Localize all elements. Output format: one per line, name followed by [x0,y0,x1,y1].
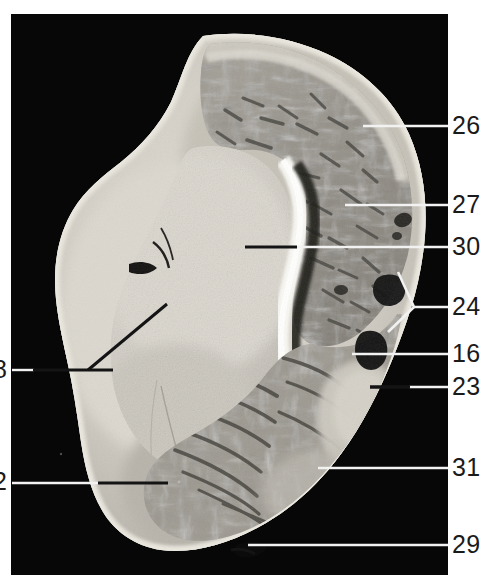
label-23: 23 [452,374,480,399]
specimen-photograph [11,14,448,575]
label-30: 30 [452,234,480,259]
anatomical-figure: 26 27 30 24 16 23 31 29 8 2 [0,0,494,588]
label-8: 8 [0,357,7,382]
label-29: 29 [452,532,480,557]
label-31: 31 [452,455,480,480]
photo-plate [11,14,448,575]
label-16: 16 [452,341,480,366]
label-27: 27 [452,192,480,217]
specimen-section-image [11,14,448,575]
label-2: 2 [0,469,7,494]
label-24: 24 [452,294,480,319]
label-26: 26 [452,113,480,138]
